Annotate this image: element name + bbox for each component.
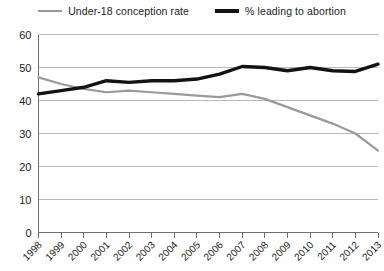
x-axis-tick-label: 2011: [315, 239, 338, 262]
y-axis-tick-labels: 0102030405060: [19, 29, 31, 239]
data-series: [39, 64, 379, 150]
x-axis-tick-label: 2004: [156, 239, 180, 263]
gridlines: [39, 35, 379, 233]
x-axis-tick-label: 2000: [66, 239, 90, 263]
y-axis-tick-label: 60: [19, 29, 31, 41]
y-axis-tick-label: 20: [19, 161, 31, 173]
x-axis-tick-label: 2007: [224, 239, 248, 263]
x-axis-tick-label: 2006: [201, 239, 225, 263]
x-axis-tick-label: 2002: [111, 239, 135, 263]
x-axis-tick-label: 2013: [360, 239, 384, 263]
x-axis-tick-label: 2005: [179, 239, 203, 263]
y-axis-tick-label: 30: [19, 128, 31, 140]
y-axis-tick-label: 50: [19, 62, 31, 74]
x-axis-tick-label: 2003: [134, 239, 158, 263]
y-axis-tick-label: 0: [25, 227, 31, 239]
x-axis-tick-label: 2001: [88, 239, 112, 263]
x-axis-tick-label: 2008: [247, 239, 271, 263]
x-axis-tick-label: 2009: [269, 239, 293, 263]
x-axis-tick-label: 1998: [20, 239, 44, 263]
x-axis-tick-labels: 1998199920002001200220032004200520062007…: [20, 239, 383, 263]
conception-rate-line-chart: Under-18 conception rate % leading to ab…: [0, 0, 384, 271]
x-axis-tick-marks: [39, 233, 379, 238]
plot-area: 0102030405060 19981999200020012002200320…: [0, 0, 384, 271]
x-axis-tick-label: 1999: [43, 239, 67, 263]
x-axis-tick-label: 2010: [292, 239, 316, 263]
x-axis-tick-label: 2012: [337, 239, 361, 263]
series-line-under-18-conception-rate: [39, 77, 379, 150]
y-axis-tick-label: 40: [19, 95, 31, 107]
y-axis-tick-label: 10: [19, 194, 31, 206]
